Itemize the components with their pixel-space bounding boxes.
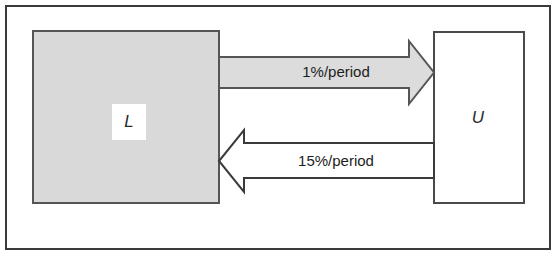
arrow-lower-to-upper[interactable] bbox=[219, 41, 434, 104]
arrow-upper-to-lower[interactable] bbox=[219, 130, 434, 192]
node-lower-box[interactable] bbox=[33, 31, 219, 203]
diagram-canvas: L U 1%/period 15%/period bbox=[0, 0, 559, 261]
diagram-graphics bbox=[0, 0, 559, 261]
node-upper-box[interactable] bbox=[434, 32, 524, 203]
